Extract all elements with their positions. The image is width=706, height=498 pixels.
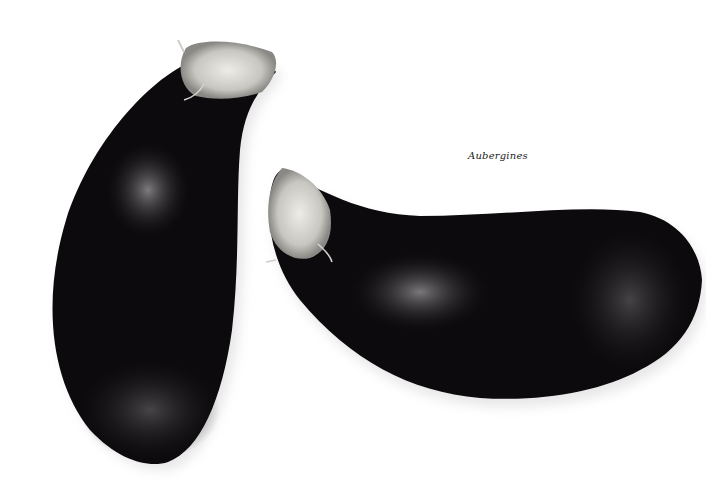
aubergine-right: [266, 168, 706, 407]
aubergines-photo: [0, 0, 706, 498]
caption: Aubergines: [468, 150, 528, 161]
aubergine-left: [53, 40, 283, 470]
